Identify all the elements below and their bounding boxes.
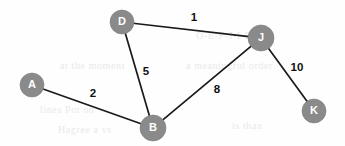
node-label: B xyxy=(149,121,157,133)
graph-node-b[interactable]: B xyxy=(140,115,166,141)
graph-node-d[interactable]: D xyxy=(110,10,134,34)
edge-weight-label: 5 xyxy=(143,65,150,77)
node-label: J xyxy=(258,31,264,43)
graph-canvas: ABDJK 152810 xyxy=(0,0,345,146)
graph-figure: O-E-F-J-I-B-Aa meaningful orderat the mo… xyxy=(0,0,345,146)
graph-node-j[interactable]: J xyxy=(248,25,274,51)
edge-weight-label: 8 xyxy=(214,83,221,95)
graph-edge-b-j xyxy=(162,46,252,121)
graph-edge-j-k xyxy=(268,48,307,102)
node-label: A xyxy=(28,78,36,90)
node-label: K xyxy=(310,104,318,116)
edge-weight-label: 1 xyxy=(191,11,198,23)
nodes-layer: ABDJK xyxy=(20,10,326,141)
graph-node-k[interactable]: K xyxy=(302,99,326,123)
node-label: D xyxy=(118,15,126,27)
graph-node-a[interactable]: A xyxy=(20,73,44,97)
edge-weight-label: 2 xyxy=(90,87,96,99)
graph-edge-d-j xyxy=(133,23,249,36)
edge-weight-label: 10 xyxy=(291,61,304,73)
